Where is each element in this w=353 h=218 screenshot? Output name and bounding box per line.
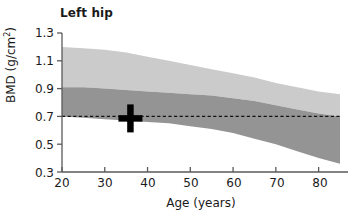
plot-area — [0, 0, 353, 218]
chart-figure: Left hip BMD (g/cm2) 1.3 1.1 0.9 0.7 0.5… — [0, 0, 353, 218]
